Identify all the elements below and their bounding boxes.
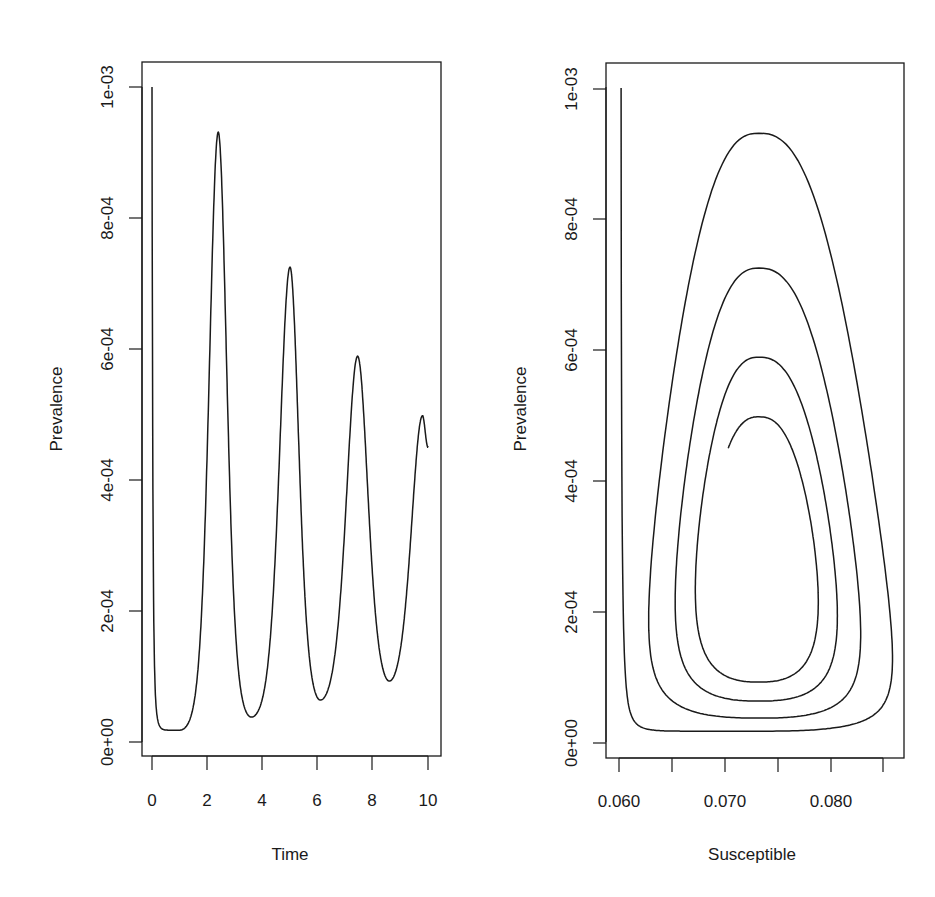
x-axis-title: Susceptible xyxy=(708,845,796,864)
y-tick-label: 2e-04 xyxy=(98,589,117,632)
y-axis-title: Prevalence xyxy=(511,366,530,451)
x-axis-title: Time xyxy=(271,845,308,864)
y-tick-label: 0e+00 xyxy=(562,719,581,767)
y-tick-label: 0e+00 xyxy=(98,718,117,766)
y-tick-label: 1e-03 xyxy=(562,67,581,110)
x-tick-label: 0.080 xyxy=(810,792,853,811)
x-tick-label: 6 xyxy=(312,791,321,810)
x-tick-label: 10 xyxy=(419,791,438,810)
y-axis-title: Prevalence xyxy=(47,366,66,451)
x-tick-label: 8 xyxy=(367,791,376,810)
x-tick-label: 0 xyxy=(147,791,156,810)
y-tick-label: 8e-04 xyxy=(98,196,117,239)
x-tick-label: 2 xyxy=(202,791,211,810)
y-tick-label: 4e-04 xyxy=(562,459,581,502)
y-tick-label: 6e-04 xyxy=(562,328,581,371)
x-tick-label: 4 xyxy=(257,791,266,810)
x-tick-label: 0.070 xyxy=(704,792,747,811)
x-tick-label: 0.060 xyxy=(598,792,641,811)
y-tick-label: 6e-04 xyxy=(98,327,117,370)
figure: 0e+00 2e-04 4e-04 6e-04 8e-04 1e-03 0 2 … xyxy=(0,0,935,897)
y-tick-label: 1e-03 xyxy=(98,65,117,108)
figure-background xyxy=(0,0,935,897)
y-tick-label: 4e-04 xyxy=(98,458,117,501)
y-tick-label: 2e-04 xyxy=(562,590,581,633)
y-tick-label: 8e-04 xyxy=(562,197,581,240)
